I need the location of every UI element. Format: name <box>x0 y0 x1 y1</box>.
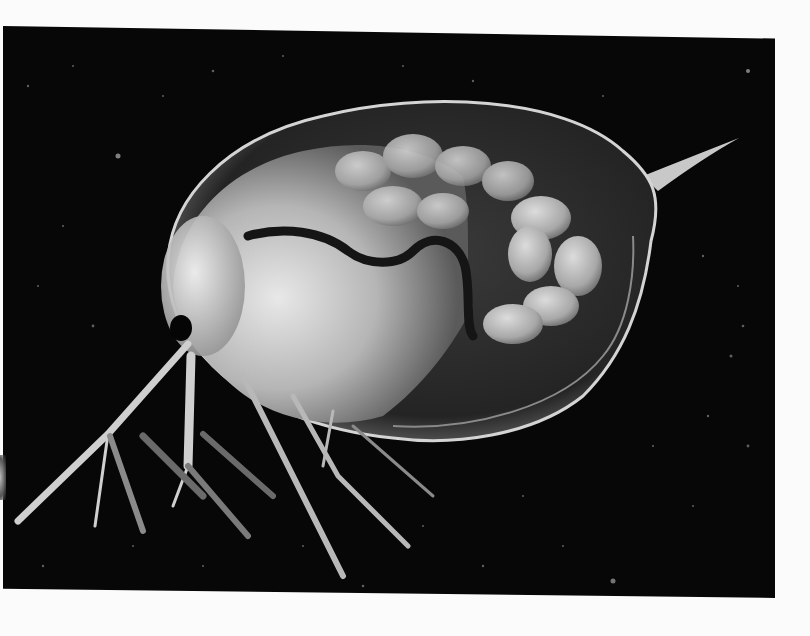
micrograph-photo <box>3 26 775 598</box>
eye <box>170 315 192 341</box>
daphnia-illustration <box>3 26 775 598</box>
tail-spine <box>643 138 739 191</box>
page <box>0 0 810 636</box>
page-edge-shadow <box>0 455 6 500</box>
